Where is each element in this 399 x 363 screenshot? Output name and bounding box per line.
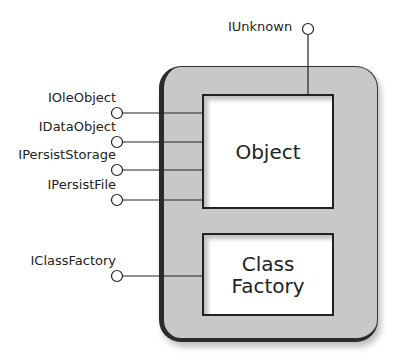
iclassfactory-lollipop-icon (112, 271, 123, 282)
ioleobject-label: IOleObject (48, 90, 116, 105)
ioleobject-lollipop-icon (112, 108, 123, 119)
ipersiststorage-lollipop-icon (112, 165, 123, 176)
ipersistfile-lollipop-icon (112, 195, 123, 206)
iunknown-lollipop-icon (303, 24, 314, 35)
iclassfactory-label: IClassFactory (30, 253, 116, 268)
idataobject-label: IDataObject (39, 119, 116, 134)
ipersiststorage-label: IPersistStorage (18, 147, 116, 162)
idataobject-lollipop-icon (112, 137, 123, 148)
ipersistfile-label: IPersistFile (47, 177, 116, 192)
iunknown-label: IUnknown (228, 19, 292, 34)
